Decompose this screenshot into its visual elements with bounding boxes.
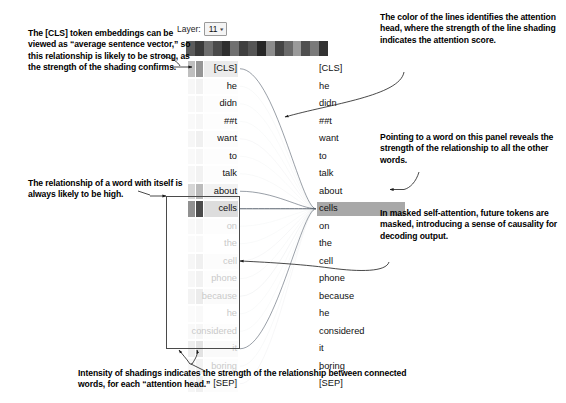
attention-line — [240, 209, 316, 384]
attention-line — [240, 209, 316, 349]
head-swatch[interactable] — [293, 41, 302, 56]
attention-head-color-bar[interactable] — [186, 41, 328, 56]
attention-line — [240, 86, 316, 209]
token-right[interactable]: phone — [318, 270, 418, 288]
head-swatch[interactable] — [230, 41, 239, 56]
attention-line — [240, 209, 316, 367]
token-right[interactable]: about — [318, 183, 418, 201]
attention-line — [240, 209, 316, 279]
token-right[interactable]: he — [318, 305, 418, 323]
attention-line — [240, 209, 316, 297]
annotation-pointing: Pointing to a word on this panel reveals… — [380, 132, 562, 166]
head-swatch[interactable] — [301, 41, 310, 56]
attention-line — [240, 174, 316, 209]
attention-line — [240, 121, 316, 209]
token-right[interactable]: talk — [318, 165, 418, 183]
head-swatch[interactable] — [284, 41, 293, 56]
layer-select[interactable]: 11 ▾ — [204, 22, 228, 36]
attention-line — [240, 209, 316, 227]
head-swatch[interactable] — [239, 41, 248, 56]
token-left[interactable]: want — [130, 130, 238, 148]
token-right[interactable]: [CLS] — [318, 60, 418, 78]
annotation-cls-token: The [CLS] token embeddings can be viewed… — [28, 28, 196, 74]
annotation-masked-attention: In masked self-attention, future tokens … — [380, 208, 558, 242]
attention-line — [240, 139, 316, 209]
head-swatch[interactable] — [310, 41, 319, 56]
token-right[interactable]: because — [318, 288, 418, 306]
annotation-line-color: The color of the lines identifies the at… — [380, 12, 560, 46]
attention-line — [240, 69, 316, 209]
token-right[interactable]: he — [318, 78, 418, 96]
token-left[interactable]: didn — [130, 95, 238, 113]
head-swatch[interactable] — [213, 41, 222, 56]
annotation-shading-intensity: Intensity of shadings indicates the stre… — [78, 368, 408, 391]
token-right[interactable]: ##t — [318, 113, 418, 131]
attention-line — [240, 209, 316, 262]
token-left[interactable]: he — [130, 78, 238, 96]
attention-line — [240, 191, 316, 209]
attention-line — [240, 156, 316, 209]
masked-region-box — [166, 196, 240, 349]
head-swatch[interactable] — [222, 41, 231, 56]
attention-line — [240, 209, 316, 244]
head-swatch[interactable] — [275, 41, 284, 56]
head-swatch[interactable] — [195, 41, 204, 56]
token-right[interactable]: cell — [318, 253, 418, 271]
head-swatch[interactable] — [204, 41, 213, 56]
head-swatch[interactable] — [319, 41, 328, 56]
chevron-down-icon: ▾ — [220, 25, 224, 34]
attention-line — [240, 209, 316, 332]
token-left[interactable]: to — [130, 148, 238, 166]
token-left[interactable]: ##t — [130, 113, 238, 131]
token-right[interactable]: it — [318, 340, 418, 358]
head-swatch[interactable] — [248, 41, 257, 56]
head-swatch[interactable] — [257, 41, 266, 56]
attention-line — [240, 104, 316, 209]
attention-line — [240, 209, 316, 314]
token-right[interactable]: didn — [318, 95, 418, 113]
annotation-self-relationship: The relationship of a word with itself i… — [28, 178, 188, 201]
token-right[interactable]: considered — [318, 323, 418, 341]
head-swatch[interactable] — [266, 41, 275, 56]
layer-select-value: 11 — [209, 23, 218, 35]
